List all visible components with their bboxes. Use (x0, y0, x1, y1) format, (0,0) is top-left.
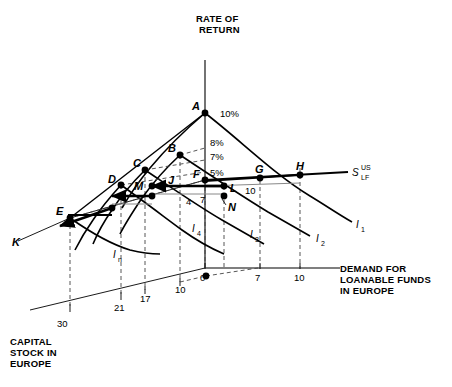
supply-sub: LF (361, 174, 369, 181)
point-c-dot (142, 167, 149, 174)
i1-base: I (356, 219, 359, 230)
label-supply-curve: S LF US (352, 164, 371, 181)
label-measure-7: 7 (200, 194, 205, 205)
i2-base: I (316, 233, 319, 244)
origin-offset-dashes (180, 268, 258, 282)
label-point-f: F (193, 168, 200, 180)
point-m-dot (149, 193, 156, 200)
depth-tick-21: 21 (114, 302, 125, 313)
i1-sub: 1 (361, 226, 365, 233)
i2-sub: 2 (321, 240, 325, 247)
depth-tick-30: 30 (57, 318, 68, 329)
demand-tick-7: 7 (255, 272, 260, 283)
demand-tick-10: 10 (294, 272, 305, 283)
supply-base: S (352, 167, 359, 178)
label-point-b: B (168, 142, 176, 154)
label-curve-i1: I 1 (356, 219, 365, 233)
label-curve-i2: I 2 (316, 233, 325, 247)
label-point-j: J (168, 174, 175, 186)
depth-tick-17: 17 (140, 293, 151, 304)
point-a-dot (202, 110, 209, 117)
label-point-h: H (296, 160, 305, 172)
point-b-dot (177, 152, 184, 159)
demand-title-line2: LOANABLE FUNDS (340, 274, 431, 285)
point-n-dot (221, 193, 228, 200)
label-point-g: G (255, 163, 264, 175)
point-mid-dot (149, 183, 156, 190)
capital-stock-title-line2: STOCK IN (10, 347, 57, 358)
rate-of-return-title-line2: RETURN (199, 24, 240, 35)
label-point-k: K (12, 236, 21, 248)
in-base: I (113, 249, 116, 260)
label-point-d: D (108, 173, 116, 185)
demand-title-line1: DEMAND FOR (340, 263, 406, 274)
i3-sub: 3 (255, 236, 259, 243)
label-rate-7pct: 7% (210, 151, 224, 162)
label-measure-10: 10 (245, 185, 256, 196)
label-point-m: M (134, 180, 144, 192)
label-measure-4: 4 (186, 196, 191, 207)
point-origin-offset-dot (203, 273, 210, 280)
point-f-dot (202, 177, 209, 184)
label-curve-i3: I 3 (250, 229, 259, 243)
label-rate-10pct: 10% (220, 108, 240, 119)
i3-base: I (250, 229, 253, 240)
label-rate-5pct: 5% (210, 167, 224, 178)
label-point-a: A (191, 100, 200, 112)
label-point-l: L (230, 182, 237, 194)
supply-sup: US (361, 164, 371, 171)
label-point-n: N (228, 201, 237, 213)
capital-stock-ticks (70, 278, 180, 312)
point-g-dot (257, 175, 264, 182)
label-rate-8pct: 8% (210, 137, 224, 148)
point-j-dot (221, 183, 228, 190)
in-sub: n (118, 256, 122, 263)
label-point-c: C (133, 157, 142, 169)
label-point-e: E (56, 205, 64, 217)
rate-of-return-title-line1: RATE OF (196, 13, 238, 24)
demand-title-line3: IN EUROPE (340, 285, 394, 296)
economics-3d-diagram: 30 21 17 10 0 7 10 RATE OF RETURN DEMAND… (0, 0, 452, 387)
point-h-dot (297, 172, 304, 179)
capital-stock-title-line3: EUROPE (10, 358, 51, 369)
point-lower-left-dot (109, 205, 116, 212)
leader-n (222, 199, 226, 205)
capital-stock-title-line1: CAPITAL (10, 336, 52, 347)
point-e-dot (67, 215, 74, 222)
ray-k-e (18, 218, 70, 241)
depth-tick-10: 10 (175, 284, 186, 295)
i4-base: I (192, 223, 195, 234)
label-curve-i4: I 4 (192, 223, 201, 237)
i4-sub: 4 (197, 230, 201, 237)
point-d-dot (118, 182, 125, 189)
